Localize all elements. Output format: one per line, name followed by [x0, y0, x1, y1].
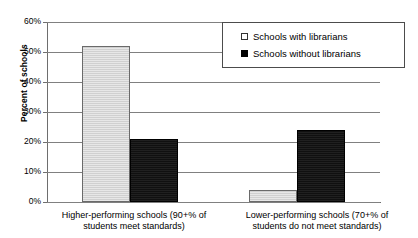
x-axis-label-higher-performing-line2: students meet standards): [36, 221, 232, 232]
legend-label-without-librarians: Schools without librarians: [253, 48, 361, 59]
bar-without-librarians-group-2: [297, 130, 345, 202]
bar-chart: Percent of schools 60%50%40%30%20%10%0% …: [0, 0, 418, 238]
legend-item-with-librarians: Schools with librarians: [241, 28, 404, 45]
legend-swatch-light-icon: [241, 33, 248, 40]
x-axis-label-lower-performing-line2: students do not meet standards): [224, 221, 410, 232]
y-axis-tick-label-wrap: 60%: [0, 17, 41, 26]
bar-with-librarians-group-2: [249, 190, 297, 202]
y-axis-tick-label-wrap: 20%: [0, 137, 41, 146]
chart-title: [0, 0, 418, 2]
y-axis-tick-label: 60%: [1, 17, 41, 26]
y-axis-tick-label-wrap: 40%: [0, 77, 41, 86]
y-axis-tick-label: 0%: [1, 197, 41, 206]
y-axis-tick-label-wrap: 30%: [0, 107, 41, 116]
legend-swatch-dark-icon: [241, 50, 248, 57]
y-axis-tick-label: 30%: [1, 107, 41, 116]
legend-item-without-librarians: Schools without librarians: [241, 45, 404, 62]
bar-without-librarians-group-1: [130, 139, 178, 202]
legend-label-with-librarians: Schools with librarians: [253, 31, 348, 42]
x-axis-label-lower-performing-line1: Lower-performing schools (70+% of: [224, 210, 410, 221]
gridline: [47, 202, 380, 203]
x-axis-label-higher-performing-line1: Higher-performing schools (90+% of: [36, 210, 232, 221]
x-axis-label-lower-performing: Lower-performing schools (70+% of studen…: [224, 210, 410, 232]
y-axis-tick-label: 20%: [1, 137, 41, 146]
bar-with-librarians-group-1: [82, 46, 130, 202]
x-axis-label-higher-performing: Higher-performing schools (90+% of stude…: [36, 210, 232, 232]
y-axis-tick-label: 40%: [1, 77, 41, 86]
y-axis-tick-label-wrap: 50%: [0, 47, 41, 56]
y-axis-tick-label-wrap: 10%: [0, 167, 41, 176]
y-axis-tick-label-wrap: 0%: [0, 197, 41, 206]
y-axis-tick-label: 50%: [1, 47, 41, 56]
legend: Schools with librarians Schools without …: [222, 22, 405, 68]
y-axis-tick-label: 10%: [1, 167, 41, 176]
